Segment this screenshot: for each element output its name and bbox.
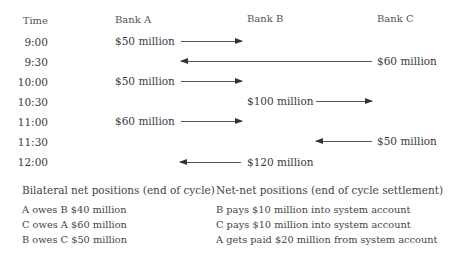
payment-amount: $50 million xyxy=(377,135,437,147)
header-bank-b: Bank B xyxy=(247,13,283,25)
netnet-item: A gets paid $20 million from system acco… xyxy=(216,234,438,246)
bilateral-title: Bilateral net positions (end of cycle) xyxy=(22,184,215,196)
netnet-item: C pays $10 million into system account xyxy=(216,219,411,231)
arrow-right-icon xyxy=(316,101,372,102)
bilateral-item: C owes A $60 million xyxy=(22,219,127,231)
payment-amount: $60 million xyxy=(377,55,437,67)
payment-amount: $120 million xyxy=(247,156,314,168)
arrow-right-icon xyxy=(181,121,242,122)
arrow-left-icon xyxy=(181,61,372,62)
row-time: 9:00 xyxy=(4,36,48,48)
bilateral-item: B owes C $50 million xyxy=(22,234,127,246)
row-time: 12:00 xyxy=(4,156,48,168)
header-bank-c: Bank C xyxy=(377,13,414,25)
arrow-left-icon xyxy=(316,141,372,142)
row-time: 10:00 xyxy=(4,76,48,88)
row-time: 11:30 xyxy=(4,136,48,148)
header-bank-a: Bank A xyxy=(115,14,151,26)
arrow-left-icon xyxy=(180,162,241,163)
row-time: 11:00 xyxy=(4,116,48,128)
payment-amount: $60 million xyxy=(115,115,175,127)
bilateral-item: A owes B $40 million xyxy=(22,204,127,216)
payment-amount: $50 million xyxy=(115,35,175,47)
row-time: 10:30 xyxy=(4,96,48,108)
row-time: 9:30 xyxy=(4,56,48,68)
netnet-title: Net-net positions (end of cycle settleme… xyxy=(216,184,443,196)
payment-amount: $50 million xyxy=(115,75,175,87)
header-time: Time xyxy=(4,15,48,27)
payment-amount: $100 million xyxy=(247,95,314,107)
netnet-item: B pays $10 million into system account xyxy=(216,204,410,216)
arrow-right-icon xyxy=(181,41,242,42)
arrow-right-icon xyxy=(181,81,242,82)
